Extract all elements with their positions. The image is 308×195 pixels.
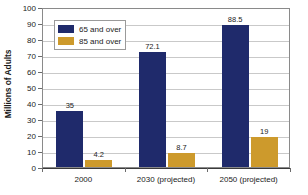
bar	[85, 160, 112, 167]
y-axis-tick-label: 0	[32, 164, 36, 173]
y-axis-tick-label: 100	[23, 4, 36, 13]
x-axis-tick-mark	[207, 168, 208, 172]
x-axis-tick-mark	[125, 168, 126, 172]
bar	[168, 153, 195, 167]
y-axis-tick-label: 30	[27, 116, 36, 125]
y-axis-tick-label: 80	[27, 36, 36, 45]
legend-item: 65 and over	[58, 23, 121, 35]
x-axis-tick-mark	[290, 168, 291, 172]
y-axis-tick-label: 10	[27, 148, 36, 157]
bar-value-label: 4.2	[94, 150, 104, 159]
bar-value-label: 35	[66, 101, 74, 110]
y-axis-tick-label: 60	[27, 68, 36, 77]
bar-chart: Millions of Adults 010203040506070809010…	[0, 0, 308, 195]
y-axis-tick-label: 50	[27, 84, 36, 93]
y-axis-tick-label: 20	[27, 132, 36, 141]
legend-item: 85 and over	[58, 35, 121, 47]
bar	[56, 111, 83, 167]
bar-value-label: 88.5	[228, 15, 243, 24]
legend-color-swatch	[58, 25, 74, 33]
legend-color-swatch	[58, 37, 74, 45]
bar	[251, 137, 278, 167]
x-axis-tick-mark	[42, 168, 43, 172]
x-axis-category-label: 2030 (projected)	[137, 175, 195, 184]
bar	[222, 25, 249, 167]
chart-legend: 65 and over85 and over	[54, 20, 126, 50]
bar-value-label: 8.7	[176, 143, 186, 152]
y-axis-tick-label: 90	[27, 20, 36, 29]
y-axis-tick-label: 70	[27, 52, 36, 61]
bar	[139, 52, 166, 167]
bar-value-label: 19	[260, 127, 268, 136]
bar-value-label: 72.1	[145, 42, 160, 51]
x-axis-category-label: 2050 (projected)	[220, 175, 278, 184]
y-axis-tick-labels: 0102030405060708090100	[16, 8, 38, 168]
legend-label: 85 and over	[79, 37, 121, 46]
y-axis-tick-label: 40	[27, 100, 36, 109]
x-axis-line	[42, 168, 290, 169]
y-axis-title: Millions of Adults	[0, 0, 16, 168]
x-axis-category-label: 2000	[74, 175, 92, 184]
legend-label: 65 and over	[79, 25, 121, 34]
y-axis-title-text: Millions of Adults	[3, 50, 13, 119]
